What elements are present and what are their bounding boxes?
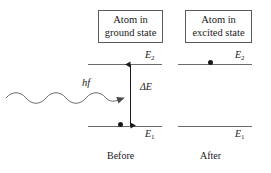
photon-wave-icon: [4, 84, 136, 112]
level-label-before-e1: E1: [145, 128, 155, 139]
caption-before: Before: [107, 150, 134, 161]
box-excited-line2: excited state: [192, 27, 244, 39]
level-label-after-e2: E2: [235, 49, 245, 60]
level-label-before-e2: E2: [145, 49, 155, 60]
caption-after: After: [200, 150, 221, 161]
photon-energy-label: hf: [82, 77, 90, 88]
level-label-after-e1: E1: [235, 128, 245, 139]
box-excited-line1: Atom in: [201, 14, 236, 26]
electron-dot-before: [118, 122, 123, 127]
box-ground-line2: ground state: [105, 27, 157, 39]
energy-level-diagram: Atom in ground state Atom in excited sta…: [0, 0, 271, 173]
delta-e-label: ΔE: [140, 81, 152, 92]
box-atom-ground-state: Atom in ground state: [98, 10, 163, 43]
box-ground-line1: Atom in: [113, 14, 148, 26]
level-label-after-e1-sub: 1: [241, 133, 245, 141]
level-label-before-e1-sub: 1: [151, 133, 155, 141]
level-label-after-e2-sub: 2: [241, 54, 245, 62]
electron-dot-after: [208, 60, 213, 65]
energy-level-line-after-e1: [178, 126, 252, 127]
box-atom-excited-state: Atom in excited state: [185, 10, 252, 43]
level-label-before-e2-sub: 2: [151, 54, 155, 62]
energy-level-line-after-e2: [178, 64, 252, 65]
